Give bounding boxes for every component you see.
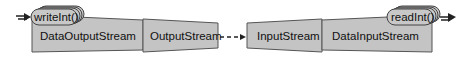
stream-diagram: DataOutputStream OutputStream InputStrea… xyxy=(0,0,468,58)
read-int-label: readInt() xyxy=(391,11,435,23)
input-stream-label: InputStream xyxy=(257,30,320,42)
data-input-stream-label: DataInputStream xyxy=(332,30,419,42)
output-stream-label: OutputStream xyxy=(150,30,222,42)
output-arrow-icon xyxy=(440,13,456,22)
data-output-stream-label: DataOutputStream xyxy=(40,30,136,42)
read-int-stack: readInt() xyxy=(387,6,440,25)
write-int-stack: writeInt() xyxy=(31,6,84,25)
write-int-label: writeInt() xyxy=(33,11,79,23)
input-arrow-icon xyxy=(16,13,31,21)
arrowhead-icon xyxy=(240,34,246,40)
